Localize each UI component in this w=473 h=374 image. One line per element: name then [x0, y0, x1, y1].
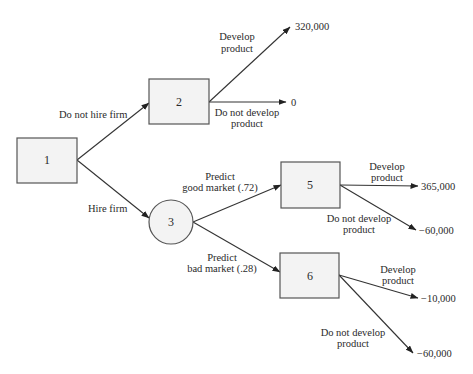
node-3-label: 3	[168, 215, 174, 229]
node-2: 2	[149, 79, 209, 124]
label-5-not-develop-line1: Do not develop	[327, 213, 392, 224]
label-predict-bad-line2: bad market (.28)	[187, 263, 257, 275]
node-1: 1	[17, 138, 77, 183]
node-5-label: 5	[307, 178, 313, 192]
payoff-0: 0	[291, 97, 296, 108]
edge-5-develop	[340, 185, 418, 186]
label-2-develop-line2: product	[221, 43, 253, 54]
label-2-develop-line1: Develop	[219, 31, 255, 42]
label-predict-good-line2: good market (.72)	[182, 182, 258, 194]
label-6-develop-line1: Develop	[380, 264, 416, 275]
decision-tree-diagram: 1 2 3 5 6 Do not hire firm Hire firm Dev…	[0, 0, 473, 374]
label-6-not-develop-line2: product	[337, 338, 369, 349]
payoff-neg-10000: −10,000	[421, 293, 456, 304]
node-6: 6	[280, 253, 339, 298]
label-5-develop-line1: Develop	[369, 161, 405, 172]
label-do-not-hire-firm: Do not hire firm	[59, 109, 128, 120]
label-6-not-develop-line1: Do not develop	[321, 327, 386, 338]
label-hire-firm: Hire firm	[88, 203, 127, 214]
label-2-not-develop-line1: Do not develop	[215, 107, 280, 118]
label-predict-good-line1: Predict	[205, 171, 235, 182]
label-6-develop-line2: product	[382, 275, 414, 286]
payoff-neg-60000-b: −60,000	[417, 348, 452, 359]
node-6-label: 6	[307, 269, 313, 283]
label-predict-bad-line1: Predict	[207, 252, 237, 263]
label-5-not-develop-line2: product	[343, 224, 375, 235]
node-5: 5	[281, 162, 340, 208]
node-3-chance: 3	[149, 200, 193, 244]
node-2-label: 2	[176, 95, 182, 109]
payoff-365000: 365,000	[421, 181, 455, 192]
label-2-not-develop-line2: product	[231, 118, 263, 129]
payoff-neg-60000-a: −60,000	[419, 225, 454, 236]
label-5-develop-line2: product	[371, 172, 403, 183]
payoff-320000: 320,000	[295, 21, 329, 32]
node-1-label: 1	[44, 153, 50, 167]
